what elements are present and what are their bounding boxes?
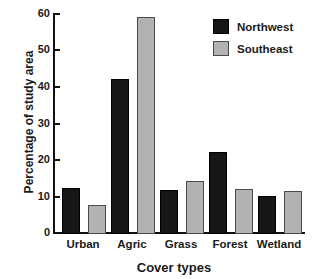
- y-tick-label-10: 10: [24, 191, 50, 202]
- x-axis-title: Cover types: [40, 260, 308, 275]
- y-tick-label-0: 0: [24, 227, 50, 238]
- x-tick-label-agric: Agric: [106, 238, 158, 250]
- y-tick-label-30: 30: [24, 118, 50, 129]
- x-tick-label-urban: Urban: [57, 238, 109, 250]
- legend-swatch-northwest-icon: [213, 19, 229, 34]
- x-tick-label-forest: Forest: [204, 238, 256, 250]
- x-tick-label-grass: Grass: [155, 238, 207, 250]
- bar-group-urban: [57, 13, 109, 234]
- legend-label-southeast: Southeast: [237, 43, 293, 55]
- chart-legend: Northwest Southeast: [213, 19, 293, 63]
- bar-grass-southeast: [186, 181, 204, 234]
- y-tick-label-40: 40: [24, 81, 50, 92]
- bar-group-agric: [106, 13, 158, 234]
- bar-forest-southeast: [235, 189, 253, 234]
- legend-swatch-southeast-icon: [213, 41, 229, 56]
- bar-grass-northwest: [160, 190, 178, 234]
- bar-agric-southeast: [137, 17, 155, 234]
- y-tick-label-60: 60: [24, 8, 50, 19]
- legend-label-northwest: Northwest: [237, 21, 293, 33]
- bar-forest-northwest: [209, 152, 227, 234]
- bar-urban-northwest: [62, 188, 80, 234]
- x-tick-label-wetland: Wetland: [251, 238, 307, 250]
- bar-group-grass: [155, 13, 207, 234]
- y-tick-label-50: 50: [24, 44, 50, 55]
- legend-item-southeast: Southeast: [213, 41, 293, 56]
- bar-wetland-northwest: [258, 196, 276, 234]
- bar-agric-northwest: [111, 79, 129, 234]
- bar-chart-figure: Percentage of study area 60 50 40 30 20 …: [0, 0, 318, 279]
- legend-item-northwest: Northwest: [213, 19, 293, 34]
- bar-urban-southeast: [88, 205, 106, 234]
- bar-wetland-southeast: [284, 191, 302, 234]
- y-tick-label-20: 20: [24, 154, 50, 165]
